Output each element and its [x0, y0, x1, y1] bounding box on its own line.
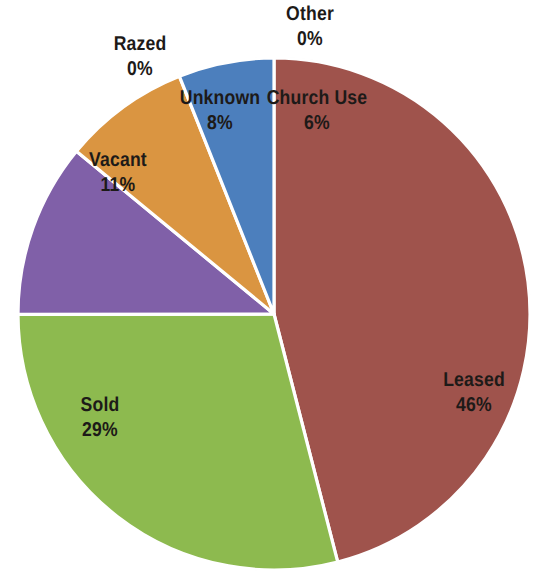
pie-label-leased-name: Leased — [443, 368, 505, 393]
pie-label-unknown-percent: 8% — [180, 111, 260, 136]
pie-label-razed-percent: 0% — [114, 57, 167, 82]
pie-label-razed: Razed 0% — [114, 32, 167, 82]
pie-label-unknown: Unknown 8% — [180, 86, 260, 136]
pie-label-leased: Leased 46% — [443, 368, 505, 418]
pie-label-church-use-percent: 6% — [267, 111, 368, 136]
pie-label-razed-name: Razed — [114, 32, 167, 57]
pie-label-other: Other 0% — [286, 2, 334, 52]
pie-label-sold: Sold 29% — [81, 393, 120, 443]
pie-label-vacant-percent: 11% — [89, 173, 147, 198]
pie-label-other-name: Other — [286, 2, 334, 27]
pie-label-other-percent: 0% — [286, 27, 334, 52]
pie-label-sold-percent: 29% — [81, 418, 120, 443]
pie-label-vacant: Vacant 11% — [89, 148, 147, 198]
pie-label-vacant-name: Vacant — [89, 148, 147, 173]
pie-label-sold-name: Sold — [81, 393, 120, 418]
pie-label-leased-percent: 46% — [443, 393, 505, 418]
pie-label-church-use-name: Church Use — [267, 86, 368, 111]
pie-chart: Other 0% Razed 0% Unknown 8% Church Use … — [0, 0, 541, 580]
pie-label-church-use: Church Use 6% — [267, 86, 368, 136]
pie-label-unknown-name: Unknown — [180, 86, 260, 111]
